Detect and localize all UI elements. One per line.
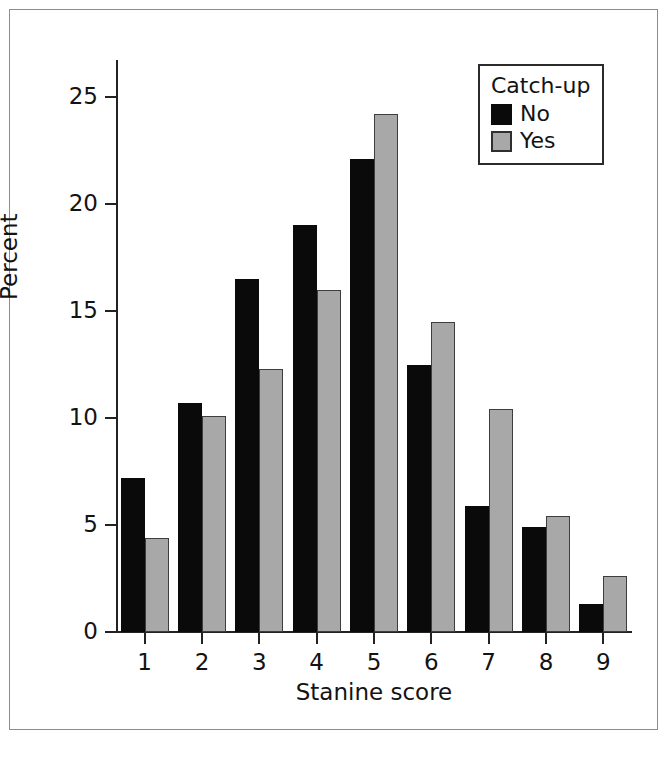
bar-2-no bbox=[178, 403, 202, 632]
legend-swatch-yes bbox=[491, 131, 512, 152]
bar-9-no bbox=[579, 604, 603, 632]
x-tick-mark bbox=[488, 632, 490, 644]
x-tick-label: 5 bbox=[352, 649, 396, 675]
x-tick-label: 2 bbox=[180, 649, 224, 675]
legend-title: Catch-up bbox=[491, 72, 590, 100]
x-tick-mark bbox=[602, 632, 604, 644]
y-axis-label: Percent bbox=[0, 213, 22, 300]
x-tick-label: 3 bbox=[237, 649, 281, 675]
y-axis-line bbox=[116, 60, 118, 633]
y-tick-label: 5 bbox=[0, 511, 98, 537]
x-tick-label: 8 bbox=[524, 649, 568, 675]
x-tick-mark bbox=[545, 632, 547, 644]
x-tick-mark bbox=[144, 632, 146, 644]
x-tick-label: 7 bbox=[467, 649, 511, 675]
y-tick-mark bbox=[105, 524, 116, 526]
figure-container: 0510152025 123456789 Percent Stanine sco… bbox=[0, 0, 667, 759]
bar-3-yes bbox=[259, 369, 283, 632]
bar-8-no bbox=[522, 527, 546, 632]
bar-6-no bbox=[407, 365, 431, 633]
bar-1-no bbox=[121, 478, 145, 632]
y-tick-label: 0 bbox=[0, 618, 98, 644]
bar-2-yes bbox=[202, 416, 226, 632]
y-tick-mark bbox=[105, 310, 116, 312]
x-tick-label: 1 bbox=[123, 649, 167, 675]
x-tick-mark bbox=[316, 632, 318, 644]
y-tick-label: 25 bbox=[0, 83, 98, 109]
y-tick-mark bbox=[105, 631, 116, 633]
bar-4-no bbox=[293, 225, 317, 632]
x-tick-mark bbox=[373, 632, 375, 644]
x-tick-label: 4 bbox=[295, 649, 339, 675]
y-tick-mark bbox=[105, 203, 116, 205]
bar-5-no bbox=[350, 159, 374, 632]
bar-9-yes bbox=[603, 576, 627, 632]
x-tick-mark bbox=[430, 632, 432, 644]
bar-5-yes bbox=[374, 114, 398, 632]
bar-6-yes bbox=[431, 322, 455, 632]
x-tick-mark bbox=[201, 632, 203, 644]
bar-3-no bbox=[235, 279, 259, 632]
y-tick-label: 10 bbox=[0, 404, 98, 430]
legend-swatch-no bbox=[491, 104, 512, 125]
legend-item-yes[interactable]: Yes bbox=[491, 128, 590, 154]
bar-8-yes bbox=[546, 516, 570, 632]
legend: Catch-up No Yes bbox=[478, 64, 604, 165]
legend-item-no[interactable]: No bbox=[491, 101, 590, 127]
legend-label-no: No bbox=[520, 101, 550, 127]
y-tick-label: 20 bbox=[0, 190, 98, 216]
legend-label-yes: Yes bbox=[520, 128, 556, 154]
bar-1-yes bbox=[145, 538, 169, 632]
x-axis-label: Stanine score bbox=[116, 679, 632, 705]
y-tick-mark bbox=[105, 96, 116, 98]
bar-4-yes bbox=[317, 290, 341, 632]
bar-7-no bbox=[465, 506, 489, 632]
bar-7-yes bbox=[489, 409, 513, 632]
x-tick-label: 9 bbox=[581, 649, 625, 675]
y-tick-mark bbox=[105, 417, 116, 419]
x-tick-mark bbox=[258, 632, 260, 644]
y-tick-label: 15 bbox=[0, 297, 98, 323]
x-tick-label: 6 bbox=[409, 649, 453, 675]
